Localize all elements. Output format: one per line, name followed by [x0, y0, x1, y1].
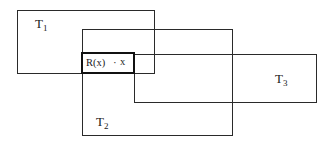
label-t3-sub: 3 [283, 78, 288, 88]
label-t3-main: T [275, 71, 283, 86]
label-t1-main: T [35, 16, 43, 31]
point-label-x: x [120, 57, 125, 68]
label-t3: T3 [275, 72, 287, 88]
label-t1-sub: 1 [43, 23, 48, 33]
label-t2: T2 [96, 115, 108, 131]
point-marker: · [113, 57, 117, 68]
label-t2-sub: 2 [104, 121, 109, 131]
label-region-r: R(x) [86, 58, 105, 69]
label-t1: T1 [35, 17, 47, 33]
label-t2-main: T [96, 114, 104, 129]
rect-t3 [134, 54, 317, 103]
